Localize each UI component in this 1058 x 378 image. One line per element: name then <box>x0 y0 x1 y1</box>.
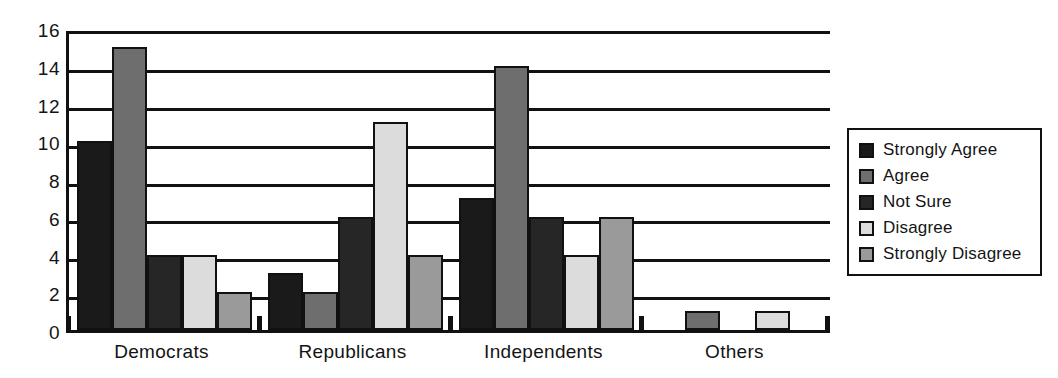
x-axis-tick-label: Others <box>639 341 830 363</box>
x-axis-group-tick <box>448 316 453 330</box>
bar <box>564 255 599 331</box>
legend-item-label: Disagree <box>883 219 953 237</box>
legend: Strongly AgreeAgreeNot SureDisagreeStron… <box>847 128 1042 276</box>
y-axis-tick-label: 12 <box>16 97 60 116</box>
bar <box>268 273 303 330</box>
legend-item-label: Not Sure <box>883 193 952 211</box>
y-axis-tick-label: 2 <box>16 285 60 304</box>
y-axis-tick-label: 14 <box>16 59 60 78</box>
bar <box>373 122 408 330</box>
y-axis-tick-label: 8 <box>16 172 60 191</box>
x-axis-group-tick <box>639 316 644 330</box>
bar <box>77 141 112 330</box>
x-axis-group-tick <box>66 316 71 330</box>
legend-item[interactable]: Agree <box>859 163 1032 189</box>
y-axis-tick-label: 6 <box>16 210 60 229</box>
bar <box>147 255 182 331</box>
bar <box>529 217 564 330</box>
bars-layer <box>69 34 830 330</box>
y-axis-tick-label: 4 <box>16 248 60 267</box>
bar <box>599 217 634 330</box>
y-axis-tick-label: 10 <box>16 134 60 153</box>
bar <box>494 66 529 330</box>
plot-area <box>66 31 830 333</box>
x-axis-tick-label: Democrats <box>66 341 257 363</box>
legend-item-label: Strongly Agree <box>883 141 997 159</box>
bar <box>338 217 373 330</box>
legend-item[interactable]: Not Sure <box>859 189 1032 215</box>
bar <box>755 311 790 330</box>
legend-item-label: Agree <box>883 167 929 185</box>
legend-swatch-icon <box>859 195 874 210</box>
x-axis-tick-label: Independents <box>448 341 639 363</box>
legend-swatch-icon <box>859 247 874 262</box>
bar <box>459 198 494 330</box>
bar <box>303 292 338 330</box>
legend-item[interactable]: Strongly Agree <box>859 137 1032 163</box>
legend-swatch-icon <box>859 221 874 236</box>
bar <box>217 292 252 330</box>
x-axis: DemocratsRepublicansIndependentsOthers <box>66 341 830 371</box>
legend-swatch-icon <box>859 143 874 158</box>
bar <box>408 255 443 331</box>
x-axis-tick-label: Republicans <box>257 341 448 363</box>
x-axis-group-tick <box>257 316 262 330</box>
x-axis-group-tick <box>825 316 830 330</box>
legend-item[interactable]: Strongly Disagree <box>859 241 1032 267</box>
y-axis: 1614121086420 <box>8 0 60 378</box>
legend-item-label: Strongly Disagree <box>883 245 1022 263</box>
y-axis-tick-label: 0 <box>16 323 60 342</box>
bar-chart: 1614121086420 DemocratsRepublicansIndepe… <box>0 0 1058 378</box>
bar <box>112 47 147 330</box>
y-axis-tick-label: 16 <box>16 21 60 40</box>
bar <box>182 255 217 331</box>
legend-item[interactable]: Disagree <box>859 215 1032 241</box>
bar <box>685 311 720 330</box>
legend-swatch-icon <box>859 169 874 184</box>
